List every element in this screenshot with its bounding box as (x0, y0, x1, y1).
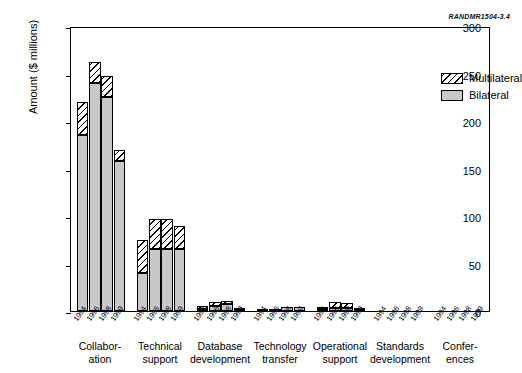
bar-group (131, 28, 191, 311)
bar-segment-bilateral (89, 83, 101, 311)
legend-swatch-bilateral (441, 90, 463, 101)
bar-segment-multilateral (101, 76, 113, 97)
bar-segment-bilateral (174, 249, 186, 311)
bar-segment-bilateral (114, 161, 126, 311)
stacked-bar (137, 240, 149, 311)
legend-item-bilateral: Bilateral (441, 89, 522, 101)
bar-segment-bilateral (161, 249, 173, 311)
y-axis-tick (66, 313, 71, 314)
stacked-bar (101, 76, 113, 311)
stacked-bar (149, 219, 161, 311)
stacked-bar (174, 226, 186, 312)
stacked-bar (114, 150, 126, 312)
bar-segment-multilateral (89, 62, 101, 83)
x-axis-category-label: Confer- ences (420, 340, 500, 365)
bar-segment-multilateral (114, 150, 126, 161)
bar-segment-multilateral (77, 102, 89, 135)
bar-group (191, 28, 251, 311)
bar-segment-multilateral (137, 240, 149, 273)
chart-legend: Multilateral Bilateral (441, 72, 522, 106)
bar-segment-multilateral (161, 219, 173, 249)
bar-group (251, 28, 311, 311)
source-id-label: RANDMR1504-3.4 (448, 13, 510, 20)
bar-group (431, 28, 491, 311)
bar-group (371, 28, 431, 311)
bar-segment-multilateral (174, 226, 186, 250)
legend-label-multilateral: Multilateral (469, 72, 522, 84)
legend-label-bilateral: Bilateral (469, 89, 509, 101)
legend-item-multilateral: Multilateral (441, 72, 522, 84)
bar-group (71, 28, 131, 311)
legend-swatch-multilateral (441, 73, 463, 84)
y-axis-title: Amount ($ millions) (27, 0, 39, 114)
bar-segment-bilateral (101, 97, 113, 311)
stacked-bar (161, 219, 173, 311)
bar-segment-bilateral (77, 135, 89, 311)
bar-segment-multilateral (221, 301, 233, 305)
plot-area: Amount ($ millions) 050100150200250300 M… (70, 27, 490, 312)
stacked-bar (89, 62, 101, 311)
bar-group (311, 28, 371, 311)
stacked-bar (77, 102, 89, 311)
bar-segment-multilateral (149, 219, 161, 249)
bar-segment-bilateral (149, 249, 161, 311)
